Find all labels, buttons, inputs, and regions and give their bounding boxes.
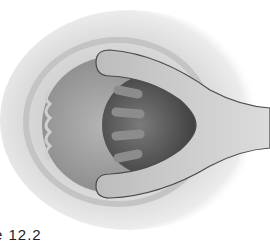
figure-caption: e 12.2 (0, 226, 42, 243)
medical-illustration (0, 0, 270, 243)
